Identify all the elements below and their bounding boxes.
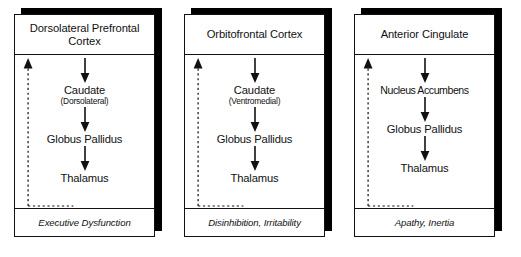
circuit-node-label: Globus Pallidus (217, 133, 292, 146)
circuit-node-label: Thalamus (401, 162, 449, 175)
panel-footer-label: Apathy, Inertia (395, 217, 455, 228)
circuit-node: Nucleus Accumbens (380, 84, 468, 97)
circuit-node: Globus Pallidus (217, 133, 292, 146)
panel-footer-label: Executive Dysfunction (38, 217, 130, 228)
down-arrow-icon (248, 146, 262, 172)
circuit-node-label: Thalamus (231, 172, 279, 185)
circuit-node-label: Thalamus (61, 172, 109, 185)
panel-body: Caudate (Ventromedial) Globus Pallidus (185, 55, 324, 208)
frontal-subcortical-circuits-diagram: Dorsolateral Prefrontal Cortex Caudate (… (0, 0, 521, 257)
circuit-flow: Nucleus Accumbens Globus Pallidus Th (355, 55, 494, 208)
circuit-node: Caudate (Ventromedial) (229, 84, 281, 107)
panel-header: Dorsolateral Prefrontal Cortex (15, 15, 154, 55)
circuit-node: Globus Pallidus (47, 133, 122, 146)
down-arrow-icon (418, 136, 432, 162)
panel-header-label: Anterior Cingulate (381, 28, 469, 41)
circuit-node-sublabel: (Ventromedial) (229, 97, 281, 107)
down-arrow-icon (248, 58, 262, 84)
circuit-node-sublabel: (Dorsolateral) (61, 97, 109, 107)
panel-footer: Executive Dysfunction (15, 208, 154, 236)
circuit-panel-slot: Anterior Cingulate Nucleus Accumbens (340, 0, 510, 257)
circuit-flow: Caudate (Dorsolateral) Globus Pallidus (15, 55, 154, 208)
circuit-node-label: Globus Pallidus (387, 123, 462, 136)
circuit-node-label: Nucleus Accumbens (380, 84, 468, 97)
circuit-node: Thalamus (61, 172, 109, 185)
circuit-panel-slot: Orbitofrontal Cortex Caudate (Ventromedi… (170, 0, 340, 257)
panel-footer-label: Disinhibition, Irritability (208, 217, 301, 228)
down-arrow-icon (78, 146, 92, 172)
circuit-node-label: Globus Pallidus (47, 133, 122, 146)
down-arrow-icon (78, 58, 92, 84)
panel-header: Anterior Cingulate (355, 15, 494, 55)
circuit-node: Globus Pallidus (387, 123, 462, 136)
panel-header-label: Dorsolateral Prefrontal Cortex (19, 22, 150, 47)
circuit-panel-slot: Dorsolateral Prefrontal Cortex Caudate (… (0, 0, 170, 257)
circuit-node: Caudate (Dorsolateral) (61, 84, 109, 107)
circuit-panel-dorsolateral-prefrontal: Dorsolateral Prefrontal Cortex Caudate (… (14, 14, 155, 237)
panel-body: Nucleus Accumbens Globus Pallidus Th (355, 55, 494, 208)
panel-header-label: Orbitofrontal Cortex (207, 28, 303, 41)
panel-body: Caudate (Dorsolateral) Globus Pallidus (15, 55, 154, 208)
circuit-node: Thalamus (231, 172, 279, 185)
down-arrow-icon (418, 58, 432, 84)
circuit-node: Thalamus (401, 162, 449, 175)
circuit-panel-anterior-cingulate: Anterior Cingulate Nucleus Accumbens (354, 14, 495, 237)
down-arrow-icon (248, 107, 262, 133)
panel-header: Orbitofrontal Cortex (185, 15, 324, 55)
down-arrow-icon (418, 97, 432, 123)
panel-footer: Disinhibition, Irritability (185, 208, 324, 236)
circuit-panel-orbitofrontal: Orbitofrontal Cortex Caudate (Ventromedi… (184, 14, 325, 237)
circuit-flow: Caudate (Ventromedial) Globus Pallidus (185, 55, 324, 208)
panel-footer: Apathy, Inertia (355, 208, 494, 236)
down-arrow-icon (78, 107, 92, 133)
